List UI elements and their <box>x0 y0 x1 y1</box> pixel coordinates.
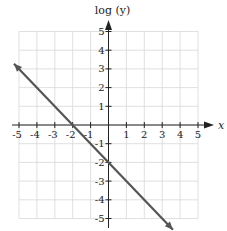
x-tick-label: -3 <box>48 129 58 140</box>
axes <box>12 20 214 228</box>
y-tick-label: -4 <box>95 194 105 205</box>
y-tick-label: -2 <box>95 157 105 168</box>
y-tick-label: 4 <box>98 45 104 56</box>
y-tick-label: -1 <box>95 138 105 149</box>
y-tick-label: 2 <box>98 82 104 93</box>
y-tick-label: 5 <box>98 26 104 37</box>
chart: -5-4-3-2-11234554321-1-2-3-4-5 x log (y) <box>0 0 227 231</box>
y-tick-label: 1 <box>98 101 104 112</box>
y-tick-label: 3 <box>98 63 104 74</box>
x-tick-label: -4 <box>30 129 40 140</box>
data-line <box>14 64 173 230</box>
x-tick-label: 3 <box>159 129 165 140</box>
y-axis-label: log (y) <box>95 4 130 17</box>
x-tick-label: -2 <box>66 129 76 140</box>
x-tick-label: 2 <box>141 129 147 140</box>
y-tick-label: -3 <box>95 176 105 187</box>
y-tick-label: -5 <box>95 213 105 224</box>
x-tick-label: -5 <box>12 129 22 140</box>
x-tick-label: 5 <box>195 129 201 140</box>
x-tick-label: 1 <box>123 129 129 140</box>
x-axis-label: x <box>218 119 225 132</box>
x-tick-label: 4 <box>177 129 183 140</box>
